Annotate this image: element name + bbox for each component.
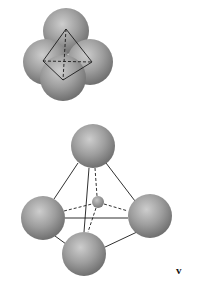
- bottom-tetrahedron: [21, 124, 172, 276]
- figure-label: v: [176, 264, 182, 276]
- void-sphere: [92, 196, 104, 208]
- top-cluster: [23, 8, 113, 101]
- sphere-top: [71, 124, 115, 168]
- sphere-right: [128, 194, 172, 238]
- sphere-bottom: [62, 232, 106, 276]
- tetrahedral-void-diagram: [0, 0, 202, 290]
- sphere-left: [21, 196, 65, 240]
